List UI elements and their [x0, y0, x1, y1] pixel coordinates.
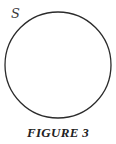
set-label: S — [11, 7, 20, 20]
set-circle — [5, 12, 111, 118]
circle-diagram — [0, 0, 116, 144]
figure-canvas: S FIGURE 3 — [0, 0, 116, 144]
figure-caption: FIGURE 3 — [0, 126, 116, 139]
